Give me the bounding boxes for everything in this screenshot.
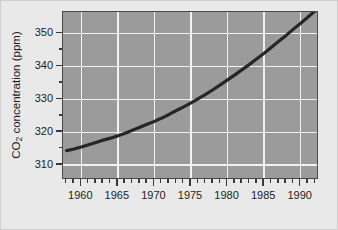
x-tick-mark <box>219 179 221 183</box>
x-tick-mark <box>101 179 103 183</box>
series-svg <box>63 12 318 179</box>
x-tick-label: 1990 <box>287 188 311 202</box>
x-tick-mark <box>306 179 308 183</box>
x-tick-label: 1980 <box>214 188 238 202</box>
y-tick-label: 310 <box>35 156 53 172</box>
data-series-layer <box>63 12 317 178</box>
x-tick-mark <box>109 179 111 183</box>
x-tick-mark <box>240 179 242 183</box>
x-tick-mark <box>65 179 67 183</box>
y-tick-label: 320 <box>35 123 53 139</box>
x-tick-mark <box>87 179 89 183</box>
x-tick-mark <box>284 179 286 183</box>
x-tick-label: 1970 <box>141 188 165 202</box>
x-tick-mark <box>299 179 301 186</box>
x-axis-ticks: 1960196519701975198019851990 <box>62 179 318 219</box>
x-tick-mark <box>248 179 250 183</box>
chart-figure: CO2 concentration (ppm) 310320330340350 … <box>0 0 338 230</box>
x-tick-mark <box>160 179 162 183</box>
x-tick-label: 1975 <box>178 188 202 202</box>
x-tick-label: 1965 <box>105 188 129 202</box>
x-tick-mark <box>123 179 125 183</box>
x-tick-label: 1960 <box>68 188 92 202</box>
x-tick-mark <box>175 179 177 183</box>
x-tick-mark <box>116 179 118 186</box>
x-tick-mark <box>167 179 169 183</box>
series-line-co2-concentration <box>67 12 316 151</box>
x-tick-mark <box>80 179 82 186</box>
x-tick-mark <box>182 179 184 183</box>
x-tick-mark <box>197 179 199 183</box>
x-tick-mark <box>189 179 191 186</box>
y-tick-label: 350 <box>35 24 53 40</box>
x-tick-mark <box>153 179 155 186</box>
x-tick-mark <box>292 179 294 183</box>
x-tick-mark <box>94 179 96 183</box>
x-tick-mark <box>270 179 272 183</box>
x-tick-mark <box>145 179 147 183</box>
y-axis-ticks: 310320330340350 <box>0 11 62 179</box>
x-tick-label: 1985 <box>251 188 275 202</box>
x-tick-mark <box>131 179 133 183</box>
y-tick-label: 340 <box>35 57 53 73</box>
x-tick-mark <box>314 179 316 183</box>
x-tick-mark <box>204 179 206 183</box>
x-tick-mark <box>277 179 279 183</box>
plot-area <box>62 11 318 179</box>
x-tick-mark <box>226 179 228 186</box>
x-tick-mark <box>255 179 257 183</box>
x-tick-mark <box>233 179 235 183</box>
x-tick-mark <box>138 179 140 183</box>
x-tick-mark <box>262 179 264 186</box>
y-tick-label: 330 <box>35 90 53 106</box>
x-tick-mark <box>211 179 213 183</box>
x-tick-mark <box>72 179 74 183</box>
